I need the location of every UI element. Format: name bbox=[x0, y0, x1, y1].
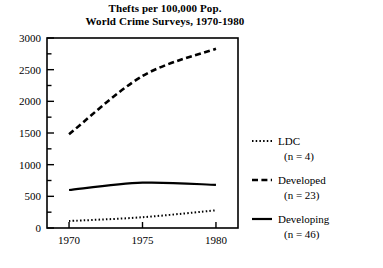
y-tick-label: 0 bbox=[36, 222, 42, 234]
x-tick-label: 1975 bbox=[132, 234, 155, 246]
legend-label-developed: Developed bbox=[278, 174, 326, 186]
chart-figure: Thefts per 100,000 Pop. World Crime Surv… bbox=[0, 0, 383, 268]
legend-label-developing: Developing bbox=[278, 213, 330, 225]
y-axis-ticks bbox=[47, 38, 54, 228]
series-line-developed bbox=[69, 49, 216, 135]
x-tick-label: 1970 bbox=[58, 234, 81, 246]
chart-svg: 050010001500200025003000 197019751980 LD… bbox=[0, 0, 383, 268]
plot-frame bbox=[47, 38, 238, 228]
legend-label-ldc: LDC bbox=[278, 135, 300, 147]
series-line-ldc bbox=[69, 210, 216, 221]
y-tick-label: 3000 bbox=[19, 32, 42, 44]
legend-sublabel-developed: (n = 23) bbox=[284, 189, 320, 202]
x-tick-label: 1980 bbox=[205, 234, 228, 246]
x-axis-tick-labels: 197019751980 bbox=[58, 234, 227, 246]
legend-sublabel-ldc: (n = 4) bbox=[284, 150, 314, 163]
y-tick-label: 1500 bbox=[19, 127, 42, 139]
y-tick-label: 500 bbox=[25, 190, 42, 202]
y-tick-label: 2000 bbox=[19, 95, 42, 107]
legend-sublabel-developing: (n = 46) bbox=[284, 228, 320, 241]
y-tick-label: 1000 bbox=[19, 159, 42, 171]
chart-series-lines bbox=[69, 49, 216, 221]
y-axis-tick-labels: 050010001500200025003000 bbox=[19, 32, 42, 234]
y-tick-label: 2500 bbox=[19, 64, 42, 76]
series-line-developing bbox=[69, 183, 216, 190]
chart-legend: LDC(n = 4)Developed(n = 23)Developing(n … bbox=[252, 135, 330, 241]
x-axis-ticks bbox=[69, 222, 216, 228]
